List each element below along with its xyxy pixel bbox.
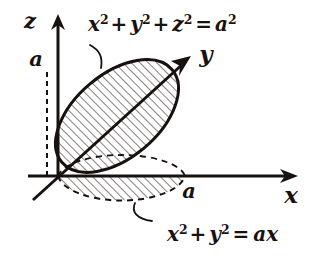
math-diagram: z y x a a x2+y2+z2=a2 x2+y2=ax xyxy=(0,0,333,266)
x-intercept-label: a xyxy=(182,178,196,203)
x-axis-label: x xyxy=(283,181,298,208)
y-axis-label: y xyxy=(198,40,214,67)
z-intercept-label: a xyxy=(29,46,43,71)
diagram-canvas: z y x a a x2+y2+z2=a2 x2+y2=ax xyxy=(0,0,333,266)
z-axis-label: z xyxy=(23,8,37,33)
